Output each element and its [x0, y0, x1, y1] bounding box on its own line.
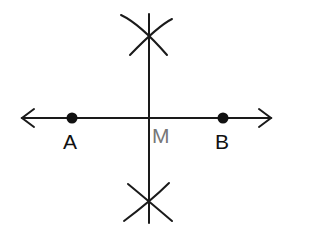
diagram-canvas: A M B: [0, 0, 314, 242]
construction-drawing: [0, 0, 314, 242]
label-b: B: [215, 131, 229, 152]
bottom-arc-from-b: [124, 183, 169, 221]
point-b: [218, 113, 229, 124]
point-a: [67, 113, 78, 124]
top-arc-from-a: [121, 15, 167, 55]
label-m: M: [152, 125, 170, 146]
label-a: A: [63, 131, 77, 152]
